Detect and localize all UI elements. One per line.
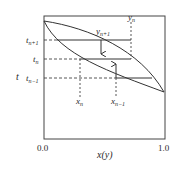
label-t-n-minus-1: tn−1	[26, 73, 39, 84]
label-x-n-minus-1: xn−1	[110, 96, 125, 107]
label-y-n-plus-1: yn+1	[95, 26, 110, 37]
label-t-n: tn	[33, 54, 39, 65]
x-tick-1: 1.0	[158, 143, 170, 153]
x-axis-label: x(y)	[96, 149, 113, 161]
label-x-n: xn	[75, 96, 83, 107]
phase-diagram: t tn+1 tn tn−1 xn xn−1 yn yn+1 0.0 1.0 x…	[0, 0, 182, 169]
y-axis-label: t	[16, 71, 19, 82]
label-y-n: yn	[127, 12, 135, 23]
label-t-n-plus-1: tn+1	[26, 35, 39, 46]
x-tick-0: 0.0	[37, 143, 49, 153]
